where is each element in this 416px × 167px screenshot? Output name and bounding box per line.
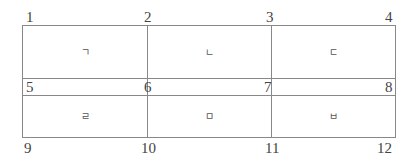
point-label-1: 1: [26, 10, 34, 25]
bottom-edge: [22, 137, 396, 138]
cell-label-nieun: ㄴ: [205, 48, 214, 58]
right-edge: [395, 25, 396, 138]
point-label-11: 11: [265, 141, 279, 156]
point-label-7: 7: [264, 80, 272, 95]
cell-label-giyeok: ㄱ: [81, 48, 90, 58]
lower-middle-line: [22, 95, 396, 96]
cell-label-mieum: ㅁ: [205, 112, 214, 122]
left-edge: [22, 25, 23, 138]
cell-label-rieul: ㄹ: [81, 112, 90, 122]
point-label-5: 5: [26, 80, 34, 95]
point-label-8: 8: [385, 80, 393, 95]
top-edge: [22, 25, 396, 26]
point-label-6: 6: [144, 80, 152, 95]
point-label-12: 12: [377, 141, 392, 156]
point-label-10: 10: [141, 141, 156, 156]
cell-label-bieup: ㅂ: [329, 112, 338, 122]
point-label-4: 4: [385, 10, 393, 25]
point-label-2: 2: [144, 10, 152, 25]
upper-middle-line: [22, 78, 396, 79]
point-label-3: 3: [266, 10, 274, 25]
cell-label-digeut: ㄷ: [329, 48, 338, 58]
point-label-9: 9: [24, 141, 32, 156]
